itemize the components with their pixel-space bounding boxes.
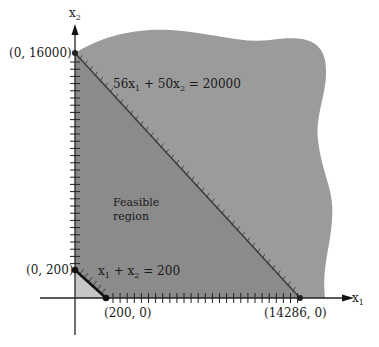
- vertex-0-16000: [72, 50, 78, 56]
- x-axis-label: x1: [352, 292, 364, 304]
- point-label-0-200: (0, 200): [26, 264, 74, 276]
- feasible-region-label: Feasible region: [113, 196, 159, 224]
- point-label-14286-0: (14286, 0): [264, 307, 327, 319]
- y-axis-label: x2: [69, 7, 81, 19]
- point-label-200-0: (200, 0): [104, 307, 152, 319]
- constraint-label-20000: 56x1 + 50x2 = 20000: [113, 78, 241, 90]
- vertex-200-0: [103, 295, 110, 302]
- point-label-0-16000: (0, 16000): [9, 47, 72, 59]
- constraint-label-200: x1 + x2 = 200: [98, 265, 180, 277]
- vertex-14286-0: [297, 295, 303, 301]
- y-axis-arrow-icon: [72, 24, 79, 35]
